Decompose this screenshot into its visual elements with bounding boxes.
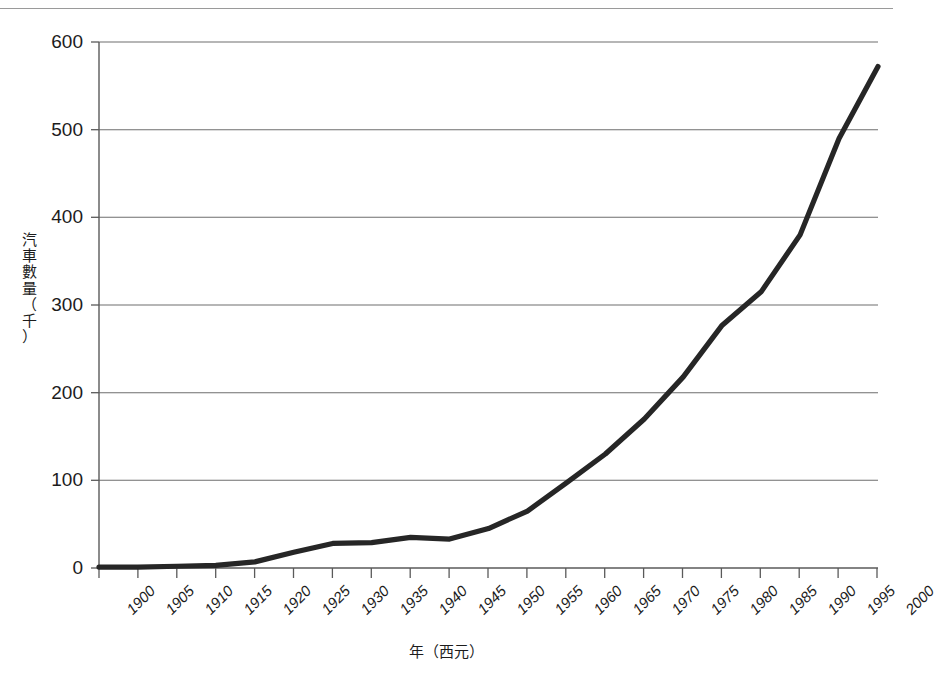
x-axis-ticks <box>99 568 877 578</box>
y-axis-title-char-2: 數 <box>12 264 46 280</box>
y-axis-title-char-3: 量 <box>12 281 46 297</box>
y-axis-title-char-4: （ <box>12 297 46 313</box>
data-series-line <box>99 67 878 568</box>
y-tick-label-200: 200 <box>27 382 83 404</box>
y-tick-label-0: 0 <box>27 557 83 579</box>
x-tick-label-2000: 2000 <box>902 582 937 618</box>
y-axis-title-char-5: 千 <box>12 313 46 329</box>
y-tick-label-500: 500 <box>27 119 83 141</box>
gridlines <box>99 42 878 480</box>
y-tick-label-400: 400 <box>27 206 83 228</box>
y-axis-title-char-6: ） <box>12 329 46 345</box>
y-tick-label-600: 600 <box>27 31 83 53</box>
x-axis-title: 年（西元） <box>0 640 893 661</box>
y-axis-title: 汽 車 數 量 （ 千 ） <box>12 232 46 345</box>
y-axis-ticks <box>91 42 99 568</box>
y-axis-title-char-0: 汽 <box>12 232 46 248</box>
y-axis-title-char-1: 車 <box>12 248 46 264</box>
y-tick-label-100: 100 <box>27 469 83 491</box>
